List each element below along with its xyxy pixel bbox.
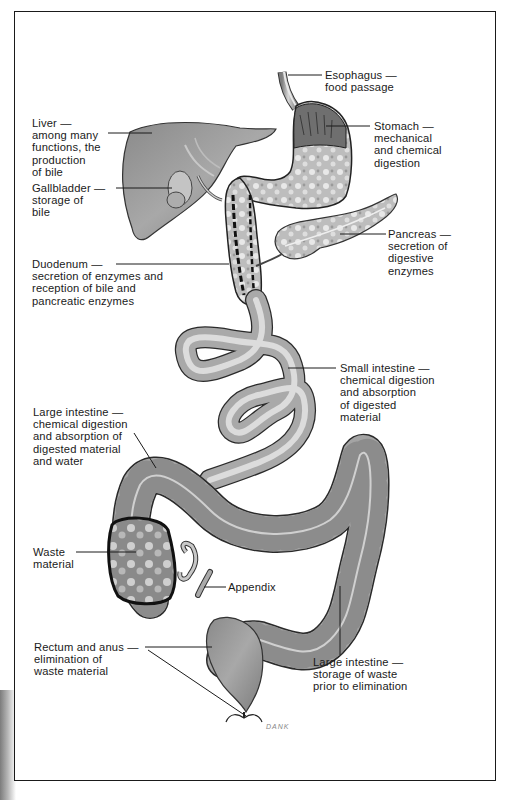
rectum [207,617,263,722]
label-waste-material: Waste material [33,546,74,570]
label-stomach: Stomach — mechanical and chemical digest… [374,120,442,169]
label-esophagus: Esophagus — food passage [325,69,397,93]
small-intestine [186,300,305,480]
label-appendix: Appendix [228,581,276,593]
label-small-intestine: Small intestine — chemical digestion and… [340,362,435,423]
label-large-intestine-storage: Large intestine — storage of waste prior… [313,656,407,693]
label-pancreas: Pancreas — secretion of digestive enzyme… [388,228,451,277]
label-duodenum: Duodenum — secretion of enzymes and rece… [32,258,163,307]
label-gallbladder: Gallbladder — storage of bile [32,182,105,219]
artist-signature: DANK [266,723,289,730]
label-rectum-anus: Rectum and anus — elimination of waste m… [34,641,139,678]
label-liver: Liver — among many functions, the produc… [32,117,101,178]
cecum-waste [109,518,175,604]
esophagus [282,72,296,108]
stomach [233,102,352,209]
label-large-intestine-absorption: Large intestine — chemical digestion and… [33,406,128,467]
